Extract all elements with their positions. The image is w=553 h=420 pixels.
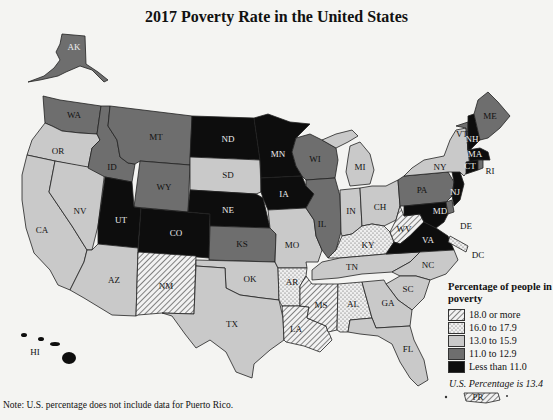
label-OR: OR (52, 146, 65, 156)
label-MN: MN (271, 149, 286, 159)
label-CT: CT (464, 161, 476, 171)
state-UT (98, 177, 141, 248)
legend-item-under-11: Less than 11.0 (448, 360, 553, 373)
state-FL (348, 318, 428, 386)
label-FL: FL (403, 344, 414, 354)
label-NY: NY (434, 162, 447, 172)
label-PA: PA (417, 185, 428, 195)
state-HI (21, 333, 76, 364)
dotted-swatch-icon (448, 322, 465, 334)
label-VA: VA (422, 235, 434, 245)
label-HI: HI (30, 347, 40, 357)
legend-item-11-13: 11.0 to 12.9 (448, 347, 553, 360)
hatch-swatch-icon (448, 309, 465, 321)
label-DE: DE (460, 221, 472, 231)
label-OK: OK (244, 274, 257, 284)
legend: Percentage of people in poverty 18.0 or … (448, 281, 553, 389)
label-MS: MS (314, 300, 327, 310)
black-swatch-icon (448, 361, 465, 373)
label-MD: MD (433, 206, 448, 216)
label-IL: IL (318, 219, 327, 229)
label-GA: GA (382, 298, 395, 308)
label-NM: NM (159, 281, 174, 291)
label-PR: PR (472, 392, 483, 402)
label-TX: TX (226, 319, 238, 329)
legend-item-16-18: 16.0 to 17.9 (448, 321, 553, 334)
label-KY: KY (362, 240, 375, 250)
footnote: Note: U.S. percentage does not include d… (3, 400, 233, 410)
label-WV: WV (397, 224, 412, 234)
label-TN: TN (346, 262, 358, 272)
label-NC: NC (422, 260, 435, 270)
label-AK: AK (68, 42, 81, 52)
label-IN: IN (346, 206, 356, 216)
label-SD: SD (222, 170, 234, 180)
label-WY: WY (157, 182, 172, 192)
label-WA: WA (67, 110, 81, 120)
label-MA: MA (468, 149, 483, 159)
state-RI (478, 160, 483, 170)
legend-item-18-plus: 18.0 or more (448, 308, 553, 321)
label-NE: NE (222, 205, 234, 215)
label-AR: AR (286, 277, 299, 287)
label-ND: ND (222, 134, 235, 144)
label-UT: UT (115, 215, 127, 225)
label-ME: ME (483, 111, 497, 121)
legend-item-13-16: 13.0 to 15.9 (448, 334, 553, 347)
label-KS: KS (236, 239, 248, 249)
label-MI: MI (355, 162, 366, 172)
label-AL: AL (347, 299, 359, 309)
label-NV: NV (74, 206, 87, 216)
label-NH: NH (466, 134, 479, 144)
label-CA: CA (36, 225, 49, 235)
us-percentage-note: U.S. Percentage is 13.4 (449, 378, 553, 389)
legend-title: Percentage of people in poverty (448, 281, 553, 305)
label-ID: ID (107, 162, 117, 172)
label-RI: RI (486, 166, 495, 176)
label-CO: CO (170, 228, 183, 238)
label-MO: MO (285, 240, 300, 250)
label-SC: SC (402, 284, 413, 294)
label-AZ: AZ (108, 275, 120, 285)
label-NJ: NJ (450, 187, 460, 197)
light-gray-swatch-icon (448, 335, 465, 347)
label-MT: MT (149, 132, 163, 142)
label-WI: WI (309, 154, 321, 164)
label-IA: IA (279, 189, 289, 199)
label-DC: DC (472, 250, 485, 260)
dark-gray-swatch-icon (448, 348, 465, 360)
label-LA: LA (290, 324, 302, 334)
label-OH: CH (374, 202, 387, 212)
